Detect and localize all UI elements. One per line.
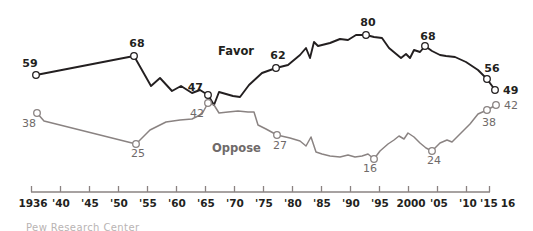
favor-data-label: 59: [22, 57, 37, 70]
x-tick-label: 16: [501, 197, 516, 209]
oppose-data-label: 24: [427, 154, 441, 167]
favor-data-label: 47: [188, 81, 203, 94]
favor-data-label: 49: [503, 84, 518, 97]
x-axis: [31, 186, 490, 192]
favor-point-marker: [205, 92, 212, 99]
oppose-data-label: 38: [482, 116, 496, 129]
x-tick-label: 2000: [396, 197, 425, 209]
x-tick-label: '60: [168, 197, 186, 209]
oppose-point-marker: [34, 110, 41, 117]
oppose-data-label: 16: [363, 162, 377, 175]
favor-data-label: 62: [270, 49, 285, 62]
x-tick-label: '05: [430, 197, 448, 209]
favor-point-marker: [273, 65, 280, 72]
favor-point-marker: [484, 76, 491, 83]
x-tick-label: '50: [110, 197, 128, 209]
x-tick-label: '95: [371, 197, 389, 209]
chart-container: 59 68 47 62 80 68 56 49 38 25 42 27 16 2…: [0, 0, 533, 231]
x-tick-label: '45: [81, 197, 99, 209]
favor-point-marker: [492, 87, 499, 94]
oppose-point-marker: [274, 132, 281, 139]
x-tick-label: '15: [480, 197, 498, 209]
oppose-data-label: 42: [190, 107, 204, 120]
oppose-point-marker: [493, 102, 500, 109]
oppose-data-label: 38: [22, 117, 36, 130]
x-axis-tick-labels: 1936 '40 '45 '50 '55 '60 '65 '70 '75 '80…: [18, 197, 515, 209]
oppose-data-label: 27: [273, 139, 287, 152]
x-tick-label: '10: [459, 197, 477, 209]
favor-point-marker: [131, 53, 138, 60]
x-tick-label: '75: [255, 197, 273, 209]
favor-point-marker: [363, 32, 370, 39]
favor-point-marker: [33, 72, 40, 79]
series-label-favor: Favor: [218, 44, 254, 58]
oppose-point-marker: [205, 100, 212, 107]
oppose-series-line: [37, 103, 496, 159]
x-tick-label: 1936: [18, 197, 47, 209]
oppose-point-marker: [484, 107, 491, 114]
source-note: Pew Research Center: [26, 222, 140, 231]
x-tick-label: '55: [139, 197, 157, 209]
x-tick-label: '85: [313, 197, 331, 209]
oppose-data-label: 25: [131, 147, 145, 160]
series-label-oppose: Oppose: [212, 141, 261, 155]
favor-data-label: 80: [360, 16, 376, 29]
favor-data-label: 56: [484, 62, 500, 75]
oppose-data-label: 42: [504, 99, 518, 112]
x-tick-label: '90: [342, 197, 360, 209]
favor-data-label: 68: [129, 37, 144, 50]
favor-point-marker: [422, 43, 429, 50]
x-tick-label: '70: [226, 197, 244, 209]
x-tick-label: '65: [197, 197, 215, 209]
x-tick-label: '80: [284, 197, 302, 209]
favor-data-label: 68: [420, 30, 435, 43]
x-tick-label: '40: [52, 197, 70, 209]
line-chart: 59 68 47 62 80 68 56 49 38 25 42 27 16 2…: [0, 0, 533, 231]
